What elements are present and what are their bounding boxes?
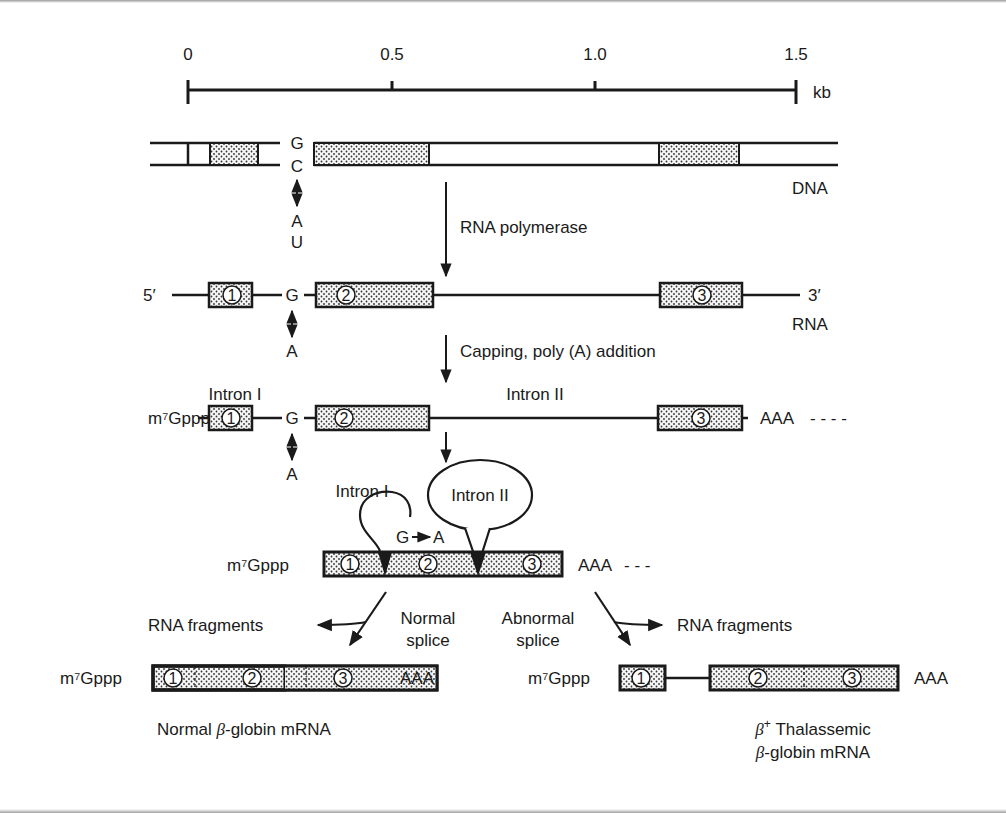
exon-1-number: 1: [169, 670, 178, 687]
scale-tick-1-5: 1.5: [784, 45, 808, 64]
poly-a-tail: AAA: [400, 669, 435, 688]
exon-2-number: 2: [340, 410, 349, 427]
dna-bottom-base: C: [291, 157, 303, 176]
step-rna-polymerase: RNA polymerase: [460, 218, 588, 237]
capped-base: G: [285, 409, 298, 428]
abnormal-caption-line-2: β-globin mRNA: [755, 743, 871, 762]
exon-2-number: 2: [342, 287, 351, 304]
fragments-arrow-icon: [614, 622, 662, 625]
exon-1-number: 1: [227, 410, 236, 427]
rna-base: G: [285, 286, 298, 305]
dna-top-base: G: [290, 134, 303, 153]
exon-3-number: 3: [848, 670, 857, 687]
poly-a-tail: AAA: [578, 556, 613, 575]
exon-3-number: 3: [528, 556, 537, 573]
poly-a-tail: AAA: [914, 669, 949, 688]
normal-splice-label-2: splice: [406, 631, 449, 650]
cap-label: m⁷Gppp: [528, 669, 590, 688]
fragments-arrow-icon: [318, 622, 366, 625]
normal-splice-arrow-icon: [350, 592, 386, 645]
dna-mutation-top: A: [291, 212, 303, 231]
cap-label: m⁷Gppp: [60, 669, 122, 688]
dna-mutation-bottom: U: [291, 233, 303, 252]
normal-splice-branch: RNA fragments Normal splice m⁷Gppp 1 2 3…: [60, 592, 455, 739]
page-edge-bottom: [0, 809, 1006, 813]
exon-1-number: 1: [346, 556, 355, 573]
abnormal-splice-branch: RNA fragments Abnormal splice m⁷Gppp 1 2…: [502, 592, 949, 762]
cap-label: m⁷Gppp: [227, 556, 289, 575]
poly-a-dashes: - - - -: [810, 409, 847, 428]
exon-2-number: 2: [424, 556, 433, 573]
rna-five-prime: 5′: [143, 286, 156, 305]
exon-1-number: 1: [228, 287, 237, 304]
mutation-to: A: [433, 528, 445, 547]
abnormal-fragments-label: RNA fragments: [677, 616, 792, 635]
mutation-from: G: [396, 528, 409, 547]
scale-unit: kb: [813, 83, 831, 102]
poly-a-dashes: - - -: [624, 556, 650, 575]
exon-1-number: 1: [637, 670, 646, 687]
scale-tick-0: 0: [183, 45, 192, 64]
normal-splice-label-1: Normal: [401, 609, 456, 628]
abnormal-splice-label-1: Abnormal: [502, 609, 575, 628]
step-capping: Capping, poly (A) addition: [460, 342, 656, 361]
scale-bar: 0 0.5 1.0 1.5 kb: [183, 45, 831, 104]
poly-a-tail: AAA: [760, 409, 795, 428]
rna-three-prime: 3′: [808, 286, 821, 305]
scale-tick-1-0: 1.0: [583, 45, 607, 64]
exon-3-number: 3: [697, 410, 706, 427]
normal-caption: Normal β-globin mRNA: [157, 720, 331, 739]
abnormal-splice-label-2: splice: [516, 631, 559, 650]
rna-mutation: A: [286, 342, 298, 361]
exon-2-number: 2: [248, 670, 257, 687]
splicing-diagram: 0 0.5 1.0 1.5 kb G C A U DNA RNA polymer…: [0, 0, 1006, 813]
normal-fragments-label: RNA fragments: [148, 616, 263, 635]
exon-2-number: 2: [754, 670, 763, 687]
abnormal-splice-arrow-icon: [595, 592, 630, 645]
exon-3-number: 3: [339, 670, 348, 687]
rna-label: RNA: [792, 315, 829, 334]
intron-1-label: Intron I: [209, 385, 262, 404]
intron-2-label: Intron II: [506, 385, 564, 404]
capped-mutation: A: [286, 465, 298, 484]
intron-2-balloon-label: Intron II: [451, 486, 509, 505]
scale-tick-0-5: 0.5: [380, 45, 404, 64]
abnormal-caption-line-1: β+ Thalassemic: [754, 717, 871, 739]
dna-label: DNA: [792, 179, 829, 198]
exon-3-number: 3: [698, 287, 707, 304]
